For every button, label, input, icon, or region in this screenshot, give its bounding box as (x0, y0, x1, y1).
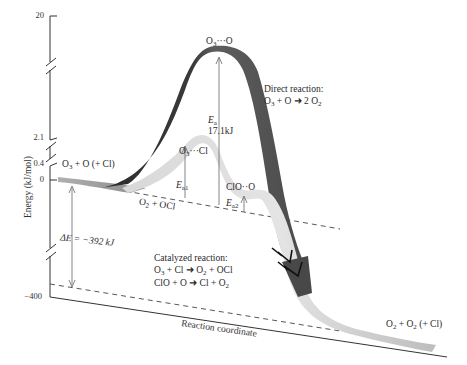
catalyzed-reaction-title: Catalyzed reaction: (154, 253, 228, 264)
transition-state-direct-label: O3···O (206, 36, 233, 47)
catalyzed-reaction-equation-2: ClO + O ➜ Cl + O2 (154, 278, 229, 289)
direct-reaction-ribbon (100, 46, 306, 272)
reaction-arrow-icon: ➜ (189, 278, 197, 288)
direct-reaction-title: Direct reaction: (264, 84, 323, 95)
transition-state-cat2-label: ClO··O (226, 182, 255, 193)
transition-state-cat1-label: O3···Cl (179, 146, 208, 157)
activation-energy-2-label: Ea2 (226, 198, 238, 209)
y-tick-2-1: 2.1 (14, 132, 44, 142)
direct-arrow-head (282, 256, 312, 297)
reaction-arrow-icon: ➜ (186, 265, 194, 275)
y-axis (46, 16, 57, 297)
activation-energy-direct-label: Ea 17.1kJ (208, 115, 233, 137)
y-tick-minus-400: −400 (12, 291, 42, 301)
y-tick-20: 20 (14, 10, 44, 20)
products-label: O2 + O2 (+ Cl) (386, 319, 442, 330)
activation-energy-1-label: Ea1 (176, 180, 188, 191)
reaction-arrow-icon: ➜ (294, 96, 302, 106)
reactants-label: O3 + O (+ Cl) (62, 159, 115, 170)
y-axis-title: Energy (kJ/mol) (23, 156, 33, 218)
direct-reaction-equation: O3 + O ➜ 2 O2 (264, 96, 322, 107)
catalyzed-reaction-equation-1: O3 + Cl ➜ O2 + OCl (154, 265, 233, 276)
